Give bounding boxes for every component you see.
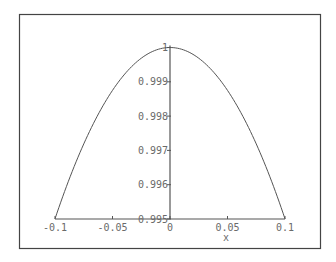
y-tick-label: 0.997 [138, 145, 168, 156]
y-tick-label: 0.995 [138, 214, 168, 225]
x-tick-label: 0.1 [276, 222, 294, 233]
y-tick-label: 0.996 [138, 179, 168, 190]
y-tick-label: 0.999 [138, 76, 168, 87]
x-tick-label: -0.1 [43, 222, 67, 233]
x-tick-label: -0.05 [97, 222, 127, 233]
x-axis-label: x [223, 232, 229, 243]
y-tick-label: 0.998 [138, 111, 168, 122]
chart-canvas: -0.1-0.0500.050.1 0.9950.9960.9970.9980.… [0, 0, 336, 262]
